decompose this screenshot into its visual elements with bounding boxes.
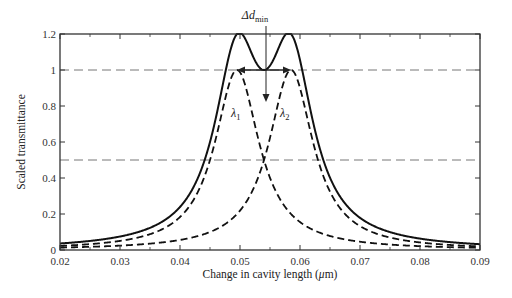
y-tick-label: 0.8 xyxy=(42,100,56,112)
peak-separation-arrow xyxy=(237,67,291,74)
x-tick-label: 0.04 xyxy=(170,255,190,267)
x-tick-labels: 0.020.030.040.050.060.070.080.09 xyxy=(50,255,490,267)
lambda2-curve xyxy=(60,70,480,248)
y-axis-title: Scaled transmittance xyxy=(15,94,27,189)
delta-d-sub: min xyxy=(255,14,269,24)
y-tick-label: 1.2 xyxy=(42,28,56,40)
lambda1-label: λ1 xyxy=(230,106,240,122)
x-tick-label: 0.07 xyxy=(350,255,370,267)
x-tick-label: 0.02 xyxy=(50,255,69,267)
y-tick-label: 0.6 xyxy=(42,136,56,148)
y-tick-label: 0.4 xyxy=(42,172,56,184)
transmittance-chart: 0.020.030.040.050.060.070.080.09 00.20.4… xyxy=(0,0,512,298)
delta-d-label: Δd xyxy=(241,8,256,22)
delta-d-min-annotation: Δdmin xyxy=(241,8,270,102)
reference-lines xyxy=(60,70,480,160)
x-tick-label: 0.03 xyxy=(110,255,130,267)
y-tick-label: 1 xyxy=(51,64,57,76)
lambda1-curve xyxy=(60,70,480,248)
x-tick-label: 0.06 xyxy=(290,255,310,267)
x-tick-label: 0.09 xyxy=(470,255,490,267)
x-tick-label: 0.08 xyxy=(410,255,430,267)
y-tick-label: 0.2 xyxy=(42,208,56,220)
curves xyxy=(60,34,480,248)
lambda2-label: λ2 xyxy=(279,106,289,122)
x-tick-label: 0.05 xyxy=(230,255,250,267)
y-tick-labels: 00.20.40.60.811.2 xyxy=(42,28,56,256)
y-tick-label: 0 xyxy=(51,244,57,256)
x-axis-title: Change in cavity length (μm) xyxy=(203,268,338,281)
svg-text:Δdmin: Δdmin xyxy=(241,8,269,24)
arrow-down-icon xyxy=(263,94,270,102)
